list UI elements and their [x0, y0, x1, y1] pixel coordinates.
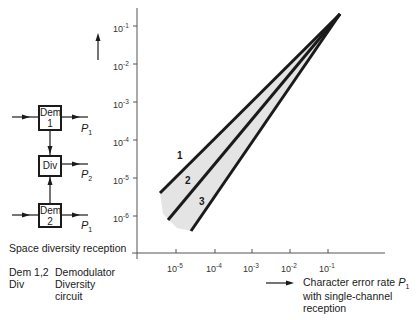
- dem1-number: 1: [40, 118, 60, 129]
- x-axis-label-line2: with single-channel: [303, 291, 392, 302]
- x-tick-label: 10-2: [281, 260, 297, 275]
- dem2-number: 2: [40, 216, 60, 227]
- y-tick-marks: [133, 26, 137, 216]
- legend-abbr-div: Div: [9, 279, 24, 290]
- legend-desc-dem: Demodulator: [55, 267, 115, 278]
- x-tick-label: 10-4: [206, 260, 222, 275]
- curve-label-2: 2: [185, 175, 191, 186]
- curve-2: [168, 14, 340, 220]
- y-tick-label: 10-3: [113, 96, 129, 111]
- diagram-caption: Space diversity reception: [9, 243, 126, 254]
- curve-label-1: 1: [177, 150, 183, 161]
- legend-abbr-dem: Dem 1,2: [9, 267, 49, 278]
- y-tick-label: 10-5: [113, 172, 129, 187]
- curve-label-3: 3: [199, 196, 205, 207]
- dem1-label: Dem: [40, 107, 60, 118]
- x-tick-label: 10-1: [319, 260, 335, 275]
- x-axis-variable: P1: [398, 276, 409, 288]
- dem2-label: Dem: [40, 205, 60, 216]
- y-tick-label: 10-1: [113, 20, 129, 35]
- p1-bottom-label: P1: [81, 219, 92, 233]
- curve-1: [160, 14, 340, 193]
- y-tick-label: 10-6: [113, 210, 129, 225]
- x-tick-label: 10-5: [167, 260, 183, 275]
- legend-desc-div: Diversity: [55, 279, 95, 290]
- y-tick-label: 10-2: [113, 58, 129, 73]
- div-block: Div: [38, 155, 62, 177]
- curve-3: [191, 14, 340, 231]
- dem2-block: Dem 2: [38, 203, 62, 228]
- y-tick-label: 10-4: [113, 134, 129, 149]
- x-tick-label: 10-3: [243, 260, 259, 275]
- legend-desc-div-cont: circuit: [55, 291, 82, 302]
- dem1-block: Dem 1: [38, 105, 62, 131]
- x-axis-label-line3: reception: [303, 303, 346, 314]
- div-label: Div: [40, 157, 60, 174]
- p1-top-label: P1: [81, 122, 92, 136]
- p2-label: P2: [81, 168, 92, 182]
- x-tick-marks: [176, 249, 328, 253]
